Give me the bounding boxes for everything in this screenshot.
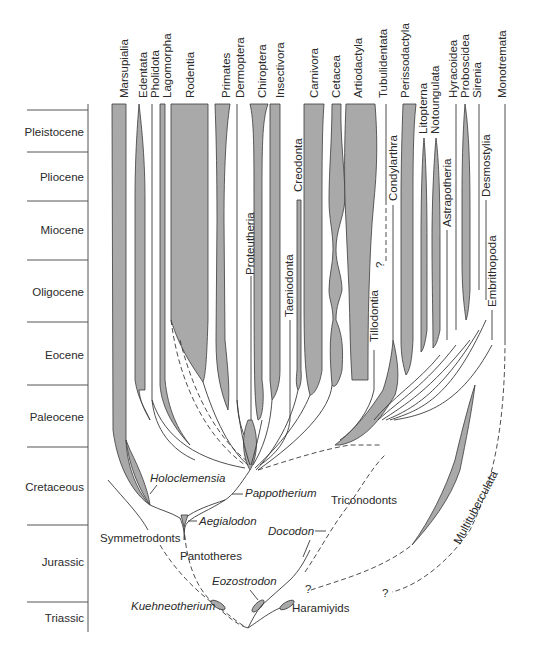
period-triassic: Triassic xyxy=(45,612,84,624)
label-tillodontia: Tillodontia xyxy=(368,289,380,342)
lineage-perissodactyla xyxy=(401,104,416,375)
period-pliocene: Pliocene xyxy=(40,171,84,183)
lineage-eozostrodon xyxy=(248,550,310,628)
label-edentata: Edentata xyxy=(137,51,149,98)
label-carnivora: Carnivora xyxy=(308,48,320,98)
label-marsupialia: Marsupialia xyxy=(118,39,130,98)
period-pleistocene: Pleistocene xyxy=(25,126,84,138)
label-taeniodonta: Taeniodonta xyxy=(283,254,295,317)
lineage-notoungulata xyxy=(432,138,440,348)
lineage-docodon xyxy=(303,540,310,557)
period-oligocene: Oligocene xyxy=(32,286,84,298)
label-question-tubulidentata: ? xyxy=(374,262,386,268)
label-creodonta: Creodonta xyxy=(292,138,304,192)
lineage-triconodonts xyxy=(305,455,385,572)
label-symmetrodonts: Symmetrodonts xyxy=(100,532,181,544)
label-insectivora: Insectivora xyxy=(274,42,286,98)
phylogeny-diagram: Pleistocene Pliocene Miocene Oligocene E… xyxy=(0,0,536,662)
label-desmostylia: Desmostylia xyxy=(480,134,492,197)
label-multituberculata: Multituberculata xyxy=(451,468,500,546)
period-jurassic: Jurassic xyxy=(42,556,84,568)
label-cetacea: Cetacea xyxy=(330,55,342,98)
stem-holoclemensia xyxy=(150,505,180,518)
label-pappotherium: Pappotherium xyxy=(245,487,317,499)
lineage-creodonta xyxy=(296,200,301,390)
lineage-multituberculata-base xyxy=(311,545,412,590)
lineage-rodentia xyxy=(171,104,208,382)
label-astrapotheria: Astrapotheria xyxy=(441,158,453,227)
label-tubulidentata: Tubulidentata xyxy=(377,28,389,98)
label-aegialodon: Aegialodon xyxy=(198,515,257,527)
label-chiroptera: Chiroptera xyxy=(256,44,268,98)
label-question-monotremata: ? xyxy=(382,587,388,599)
label-pholidota: Pholidota xyxy=(149,49,161,98)
label-holoclemensia: Holoclemensia xyxy=(150,472,225,484)
label-condylarthra: Condylarthra xyxy=(387,135,399,201)
label-question-haramiyids: ? xyxy=(305,583,311,595)
label-dermoptera: Dermoptera xyxy=(234,37,246,98)
label-triconodonts: Triconodonts xyxy=(331,494,397,506)
label-proteutheria: Proteutheria xyxy=(244,212,256,275)
lineage-edentata xyxy=(135,104,150,420)
arrow-holoclemensia xyxy=(150,485,157,494)
label-eozostrodon: Eozostrodon xyxy=(212,575,277,587)
period-paleocene: Paleocene xyxy=(30,411,84,423)
label-pantotheres: Pantotheres xyxy=(180,550,242,562)
lineage-carnivora xyxy=(304,104,324,395)
lineage-primates xyxy=(215,104,230,410)
label-haramiyids: Haramiyids xyxy=(292,602,350,614)
label-kuehneotherium: Kuehneotherium xyxy=(131,600,216,612)
label-notoungulata: Notoungulata xyxy=(429,65,441,134)
label-rodentia: Rodentia xyxy=(184,51,196,98)
branches-placentals xyxy=(152,382,332,470)
label-lagomorpha: Lagomorpha xyxy=(161,33,173,98)
label-monotremata: Monotremata xyxy=(496,30,508,98)
lineage-monotremata-lower xyxy=(392,340,505,592)
period-cretaceous: Cretaceous xyxy=(25,481,84,493)
lineage-insectivora xyxy=(270,104,280,400)
eozostrodon-marker xyxy=(250,598,266,614)
label-docodon: Docodon xyxy=(268,525,314,537)
label-embrithopoda: Embrithopoda xyxy=(486,235,498,307)
arrow-eozostrodon xyxy=(250,590,258,600)
label-primates: Primates xyxy=(220,52,232,98)
label-sirenia: Sirenia xyxy=(471,62,483,98)
period-eocene: Eocene xyxy=(45,349,84,361)
label-artiodactyla: Artiodactyla xyxy=(352,37,364,98)
label-proboscidea: Proboscidea xyxy=(459,33,471,98)
time-axis: Pleistocene Pliocene Miocene Oligocene E… xyxy=(25,104,88,632)
label-perissodactyla: Perissodactyla xyxy=(399,23,411,98)
connector-artiodactyla xyxy=(258,445,380,470)
label-litopterna: Litopterna xyxy=(417,82,429,134)
lineage-litopterna xyxy=(421,138,427,352)
label-hyracoidea: Hyracoidea xyxy=(447,39,459,98)
lineage-proboscidea xyxy=(462,104,470,320)
lineage-cetacea xyxy=(329,104,345,386)
period-miocene: Miocene xyxy=(41,224,84,236)
